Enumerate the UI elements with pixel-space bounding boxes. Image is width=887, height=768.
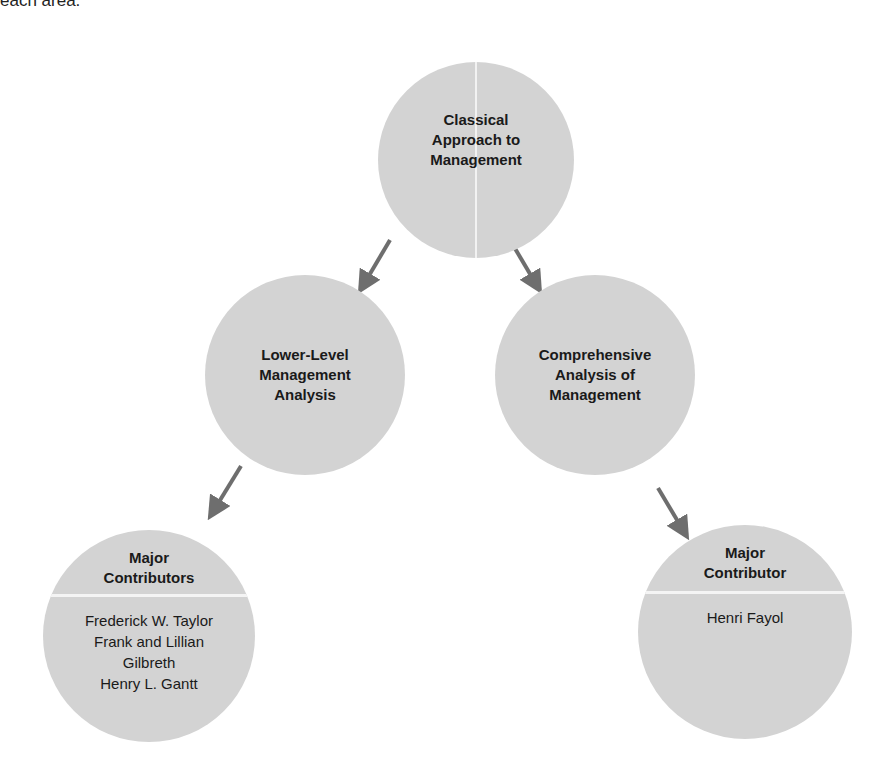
contributor-name: Gilbreth [43, 652, 255, 673]
contributor-name: Henri Fayol [638, 607, 852, 628]
contributor-name: Frederick W. Taylor [43, 610, 255, 631]
node-comprehensive-analysis: Comprehensive Analysis of Management [495, 275, 695, 475]
node-label-line: Classical [378, 110, 574, 130]
contributors-heading-line: Contributors [43, 568, 255, 588]
node-major-contributors: Major Contributors Frederick W. Taylor F… [43, 530, 255, 742]
node-classical-approach: Classical Approach to Management [378, 62, 574, 258]
node-label-line: Management [205, 365, 405, 385]
node-label-line: Management [495, 385, 695, 405]
node-label-line: Comprehensive [495, 345, 695, 365]
contributor-name: Frank and Lillian [43, 631, 255, 652]
node-label-line: Analysis [205, 385, 405, 405]
contributor-heading-line: Contributor [638, 563, 852, 583]
node-label-line: Lower-Level [205, 345, 405, 365]
node-lower-level-analysis: Lower-Level Management Analysis [205, 275, 405, 475]
arrow-comprehensive-to-contributor [658, 488, 683, 530]
node-label-line: Approach to [378, 130, 574, 150]
arrow-root-to-lower-level [364, 240, 390, 284]
node-label-line: Management [378, 150, 574, 170]
contributor-name: Henry L. Gantt [43, 673, 255, 694]
horizontal-divider [43, 594, 255, 597]
contributors-heading-line: Major [43, 548, 255, 568]
node-label-line: Analysis of [495, 365, 695, 385]
contributor-heading-line: Major [638, 543, 852, 563]
node-major-contributor: Major Contributor Henri Fayol [638, 525, 852, 739]
arrow-lower-level-to-contributors [214, 466, 241, 510]
horizontal-divider [638, 591, 852, 594]
